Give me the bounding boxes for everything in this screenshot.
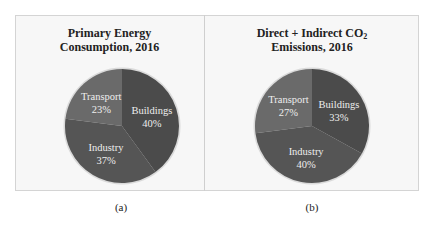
slice-percent: 40% <box>142 118 162 129</box>
caption-a: (a) <box>106 201 136 213</box>
caption-b: (b) <box>297 201 327 213</box>
slice-label: Buildings <box>319 99 360 110</box>
slice-label: Industry <box>89 142 125 153</box>
pie-chart-b: Buildings33%Industry40%Transport27% <box>252 66 372 186</box>
title-line-1: Primary Energy <box>68 26 152 40</box>
chart-title-b: Direct + Indirect CO2 Emissions, 2016 <box>205 26 419 54</box>
slice-percent: 23% <box>92 104 112 115</box>
slice-percent: 27% <box>279 107 299 118</box>
title-subscript: 2 <box>363 32 367 41</box>
slice-label: Transport <box>268 94 309 105</box>
chart-title-a: Primary Energy Consumption, 2016 <box>15 26 204 54</box>
slice-percent: 33% <box>329 112 349 123</box>
slice-label: Industry <box>289 146 325 157</box>
title-line-2: Emissions, 2016 <box>271 40 352 54</box>
pie-chart-a: Buildings40%Industry37%Transport23% <box>62 66 182 186</box>
slice-label: Buildings <box>131 105 172 116</box>
slice-label: Transport <box>81 91 122 102</box>
slice-percent: 40% <box>297 159 317 170</box>
slice-percent: 37% <box>96 155 116 166</box>
title-line-2: Consumption, 2016 <box>60 40 159 54</box>
title-line-1: Direct + Indirect CO <box>257 26 364 40</box>
